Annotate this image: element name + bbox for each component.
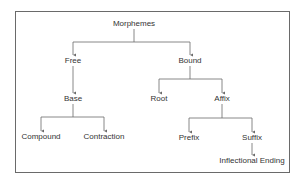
node-free: Free: [65, 57, 81, 65]
node-compound: Compound: [21, 133, 60, 141]
node-prefix: Prefix: [179, 134, 199, 142]
node-morphemes: Morphemes: [113, 20, 155, 28]
node-bound: Bound: [178, 57, 201, 65]
node-base: Base: [64, 95, 82, 103]
node-suffix: Suffix: [242, 134, 262, 142]
morphemes-tree-diagram: Morphemes Free Bound Base Root Affix Com…: [0, 0, 306, 185]
node-contraction: Contraction: [84, 133, 125, 141]
node-root: Root: [151, 95, 168, 103]
node-affix: Affix: [214, 95, 229, 103]
node-inflectional-ending: Inflectional Ending: [219, 157, 284, 165]
